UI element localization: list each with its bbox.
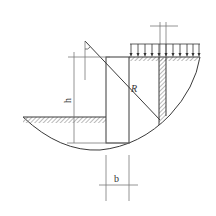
radius-label: R	[130, 83, 137, 94]
hatched-slice-strip	[159, 57, 166, 125]
toe-ground-surface	[23, 117, 106, 123]
slip-surface-arc	[23, 57, 200, 150]
angle-arc	[85, 47, 90, 49]
height-label: h	[62, 98, 73, 103]
slice-block	[106, 57, 129, 143]
distributed-load	[130, 44, 201, 57]
height-dimension	[67, 52, 130, 143]
radius-line	[85, 41, 160, 120]
width-label: b	[114, 173, 119, 184]
slope-stability-diagram: h R b	[0, 0, 216, 216]
